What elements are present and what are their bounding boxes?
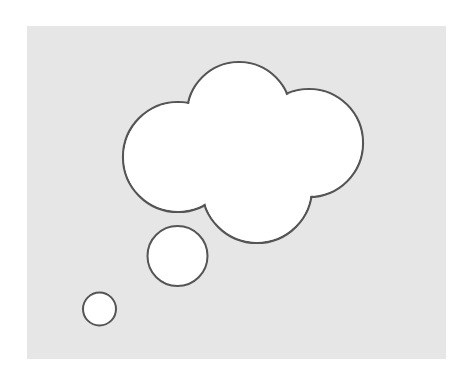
trail-bubble-small bbox=[83, 293, 116, 326]
thought-bubble-svg bbox=[0, 0, 472, 375]
trail-bubble-medium bbox=[148, 226, 208, 286]
thought-bubble-figure bbox=[0, 0, 472, 375]
cloud-lobe-fill bbox=[203, 134, 311, 242]
